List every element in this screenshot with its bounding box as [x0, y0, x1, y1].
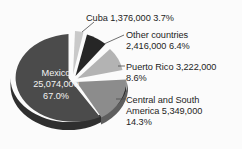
- slice-label-central-south-america-line2: America 5,349,000: [126, 106, 202, 117]
- slice-label-mexico-line1: Mexico: [14, 68, 98, 79]
- slice-label-other-countries-line2: 2,416,000 6.4%: [126, 41, 190, 52]
- slice-label-mexico-line2: 25,074,000: [14, 79, 98, 90]
- slice-label-mexico: Mexico 25,074,000 67.0%: [14, 68, 98, 102]
- slice-label-central-south-america-line3: 14.3%: [126, 117, 202, 128]
- slice-label-central-south-america-line1: Central and South: [126, 95, 202, 106]
- slice-label-central-south-america: Central and South America 5,349,000 14.3…: [126, 95, 202, 129]
- leader-line-other-countries: [104, 35, 124, 44]
- slice-label-cuba: Cuba 1,376,000 3.7%: [86, 13, 174, 24]
- slice-label-cuba-line1: Cuba 1,376,000 3.7%: [86, 13, 174, 24]
- pie-chart: Cuba 1,376,000 3.7% Other countries 2,41…: [0, 0, 242, 149]
- slice-label-mexico-line3: 67.0%: [14, 91, 98, 102]
- slice-label-puerto-rico-line1: Puerto Rico 3,222,000: [126, 62, 216, 73]
- slice-label-puerto-rico-line2: 8.6%: [126, 73, 216, 84]
- slice-label-other-countries-line1: Other countries: [126, 30, 190, 41]
- slice-label-puerto-rico: Puerto Rico 3,222,000 8.6%: [126, 62, 216, 84]
- slice-label-other-countries: Other countries 2,416,000 6.4%: [126, 30, 190, 52]
